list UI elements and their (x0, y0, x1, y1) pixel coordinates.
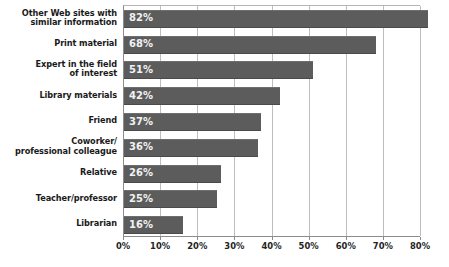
bar-value-label: 16% (129, 219, 153, 231)
x-tick-mark (383, 237, 384, 240)
bar-row[interactable]: 37% (124, 113, 421, 131)
x-tick-mark (123, 237, 124, 240)
bar-row[interactable]: 36% (124, 139, 421, 157)
x-tick-mark (309, 237, 310, 240)
x-tick-mark (346, 237, 347, 240)
x-tick-mark (234, 237, 235, 240)
bar-value-label: 26% (129, 167, 153, 179)
category-label: Librarian (0, 219, 117, 228)
bar-row[interactable]: 68% (124, 36, 421, 54)
bar-value-label: 51% (129, 64, 153, 76)
bar[interactable] (124, 36, 376, 54)
bar-value-label: 42% (129, 90, 153, 102)
x-tick-label: 30% (224, 241, 244, 251)
category-label: Relative (0, 168, 117, 177)
x-tick-label: 0% (116, 241, 130, 251)
category-label: Teacher/professor (0, 194, 117, 203)
x-tick-label: 20% (187, 241, 207, 251)
x-tick-label: 80% (410, 241, 430, 251)
bar-chart: Other Web sites with similar information… (0, 0, 449, 267)
bar-value-label: 36% (129, 141, 153, 153)
x-tick-mark (197, 237, 198, 240)
bar-row[interactable]: 16% (124, 216, 421, 234)
category-label: Print material (0, 39, 117, 48)
category-label: Expert in the field of interest (0, 60, 117, 79)
x-tick-mark (272, 237, 273, 240)
bar-value-label: 25% (129, 193, 153, 205)
x-tick-label: 70% (373, 241, 393, 251)
x-tick-label: 10% (150, 241, 170, 251)
x-axis: 0%10%20%30%40%50%60%70%80% (123, 237, 420, 259)
x-tick-label: 50% (299, 241, 319, 251)
x-tick-mark (160, 237, 161, 240)
bar[interactable] (124, 10, 428, 28)
bar-value-label: 37% (129, 116, 153, 128)
x-tick-label: 60% (336, 241, 356, 251)
category-label: Friend (0, 116, 117, 125)
bar-row[interactable]: 82% (124, 10, 421, 28)
bar-value-label: 82% (129, 12, 153, 24)
bar-row[interactable]: 25% (124, 190, 421, 208)
bar-row[interactable]: 26% (124, 165, 421, 183)
plot-area: 82%68%51%42%37%36%26%25%16% (123, 5, 420, 237)
bar-value-label: 68% (129, 38, 153, 50)
x-tick-mark (420, 237, 421, 240)
x-tick-label: 40% (261, 241, 281, 251)
bar-row[interactable]: 42% (124, 87, 421, 105)
category-label: Other Web sites with similar information (0, 9, 117, 28)
bar-row[interactable]: 51% (124, 61, 421, 79)
category-label-column: Other Web sites with similar information… (0, 5, 120, 237)
category-label: Coworker/ professional colleague (0, 137, 117, 156)
category-label: Library materials (0, 91, 117, 100)
